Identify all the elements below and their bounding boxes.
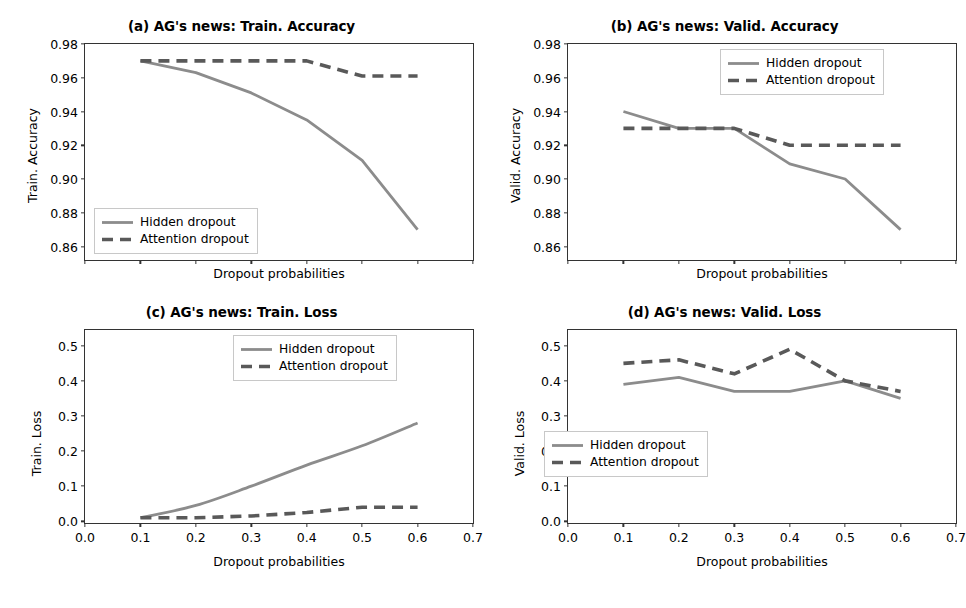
legend-swatch-solid-line-icon	[102, 217, 133, 228]
panel-d-valid-loss: (d) AG's news: Valid. Loss Valid. Loss 0…	[483, 296, 966, 608]
x-tick-label: 0.1	[613, 523, 633, 545]
legend-item-attention-dropout[interactable]: Attention dropout	[728, 72, 875, 89]
y-tick-label: 0.94	[50, 104, 85, 119]
series-layer	[568, 330, 956, 523]
x-tick-mark	[844, 260, 845, 264]
x-tick-label: 0.4	[780, 523, 800, 545]
x-tick-mark	[251, 260, 252, 264]
y-tick-label: 0.96	[533, 70, 568, 85]
legend-label: Hidden dropout	[590, 439, 686, 451]
panel-a-title: (a) AG's news: Train. Accuracy	[0, 18, 483, 34]
series-line-hidden-dropout	[140, 61, 417, 230]
panel-b-valid-accuracy: (b) AG's news: Valid. Accuracy Valid. Ac…	[483, 0, 966, 296]
panel-d-xlabel: Dropout probabilities	[567, 554, 957, 569]
x-tick-mark	[361, 260, 362, 264]
figure-canvas: (a) AG's news: Train. Accuracy Train. Ac…	[0, 0, 966, 608]
panel-c-legend: Hidden dropoutAttention dropout	[233, 335, 397, 381]
x-tick-mark	[195, 260, 196, 264]
x-tick-mark	[900, 260, 901, 264]
legend-label: Hidden dropout	[766, 57, 862, 69]
x-tick-mark	[306, 260, 307, 264]
panel-d-legend: Hidden dropoutAttention dropout	[544, 431, 708, 477]
y-tick-label: 0.96	[50, 70, 85, 85]
x-tick-label: 0.5	[835, 523, 855, 545]
x-tick-label: 0.1	[130, 523, 150, 545]
legend-item-hidden-dropout[interactable]: Hidden dropout	[552, 437, 699, 454]
x-tick-label: 0.7	[946, 523, 966, 545]
x-tick-mark	[734, 260, 735, 264]
y-tick-label: 0.88	[50, 205, 85, 220]
x-tick-mark	[84, 260, 85, 264]
legend-label: Attention dropout	[590, 456, 699, 468]
legend-item-attention-dropout[interactable]: Attention dropout	[241, 358, 388, 375]
legend-label: Hidden dropout	[279, 343, 375, 355]
legend-item-attention-dropout[interactable]: Attention dropout	[102, 231, 249, 248]
y-tick-label: 0.98	[50, 37, 85, 52]
y-tick-label: 0.3	[58, 408, 85, 423]
x-tick-mark	[789, 260, 790, 264]
x-tick-mark	[955, 260, 956, 264]
panel-d-ylabel: Valid. Loss	[512, 384, 527, 504]
x-tick-label: 0.3	[241, 523, 261, 545]
x-tick-label: 0.6	[891, 523, 911, 545]
panel-a-train-accuracy: (a) AG's news: Train. Accuracy Train. Ac…	[0, 0, 483, 296]
panel-a-xlabel: Dropout probabilities	[84, 266, 474, 281]
legend-item-hidden-dropout[interactable]: Hidden dropout	[728, 55, 875, 72]
y-tick-label: 0.2	[58, 444, 85, 459]
y-tick-label: 0.86	[50, 239, 85, 254]
y-tick-label: 0.5	[58, 338, 85, 353]
panel-c-train-loss: (c) AG's news: Train. Loss Train. Loss 0…	[0, 296, 483, 608]
legend-item-hidden-dropout[interactable]: Hidden dropout	[102, 214, 249, 231]
y-tick-label: 0.4	[58, 373, 85, 388]
legend-label: Hidden dropout	[140, 216, 236, 228]
legend-swatch-solid-line-icon	[728, 58, 759, 69]
panel-b-ylabel: Valid. Accuracy	[508, 96, 523, 216]
x-tick-label: 0.6	[408, 523, 428, 545]
x-tick-mark	[472, 260, 473, 264]
x-tick-label: 0.7	[463, 523, 483, 545]
legend-swatch-dashed-line-icon	[102, 234, 133, 245]
legend-swatch-dashed-line-icon	[728, 75, 759, 86]
y-tick-label: 0.98	[533, 37, 568, 52]
x-tick-label: 0.2	[669, 523, 689, 545]
series-line-hidden-dropout	[623, 377, 900, 398]
x-tick-label: 0.5	[352, 523, 372, 545]
legend-label: Attention dropout	[279, 360, 388, 372]
y-tick-label: 0.92	[533, 138, 568, 153]
panel-b-title: (b) AG's news: Valid. Accuracy	[483, 18, 966, 34]
y-tick-label: 0.4	[541, 373, 568, 388]
y-tick-label: 0.90	[533, 172, 568, 187]
panel-d-title: (d) AG's news: Valid. Loss	[483, 304, 966, 320]
legend-swatch-dashed-line-icon	[241, 361, 272, 372]
y-tick-label: 0.90	[50, 172, 85, 187]
x-tick-label: 0.0	[558, 523, 578, 545]
x-tick-label: 0.4	[297, 523, 317, 545]
x-tick-mark	[567, 260, 568, 264]
legend-item-attention-dropout[interactable]: Attention dropout	[552, 454, 699, 471]
legend-item-hidden-dropout[interactable]: Hidden dropout	[241, 341, 388, 358]
y-tick-label: 0.92	[50, 138, 85, 153]
panel-d-plot-area: 0.00.10.20.30.40.50.00.10.20.30.40.50.60…	[567, 329, 957, 524]
x-tick-mark	[140, 260, 141, 264]
legend-swatch-solid-line-icon	[241, 344, 272, 355]
x-tick-label: 0.3	[724, 523, 744, 545]
y-tick-label: 0.5	[541, 338, 568, 353]
y-tick-label: 0.1	[58, 479, 85, 494]
panel-c-xlabel: Dropout probabilities	[84, 554, 474, 569]
panel-c-ylabel: Train. Loss	[29, 384, 44, 504]
panel-b-xlabel: Dropout probabilities	[567, 266, 957, 281]
x-tick-label: 0.2	[186, 523, 206, 545]
panel-a-legend: Hidden dropoutAttention dropout	[94, 208, 258, 254]
legend-swatch-solid-line-icon	[552, 440, 583, 451]
legend-label: Attention dropout	[766, 74, 875, 86]
x-tick-label: 0.0	[75, 523, 95, 545]
x-tick-mark	[678, 260, 679, 264]
panel-c-title: (c) AG's news: Train. Loss	[0, 304, 483, 320]
panel-b-legend: Hidden dropoutAttention dropout	[720, 49, 884, 95]
y-tick-label: 0.86	[533, 239, 568, 254]
legend-label: Attention dropout	[140, 233, 249, 245]
panel-a-ylabel: Train. Accuracy	[25, 96, 40, 216]
series-line-hidden-dropout	[140, 423, 417, 518]
series-line-attention-dropout	[623, 128, 900, 145]
x-tick-mark	[623, 260, 624, 264]
